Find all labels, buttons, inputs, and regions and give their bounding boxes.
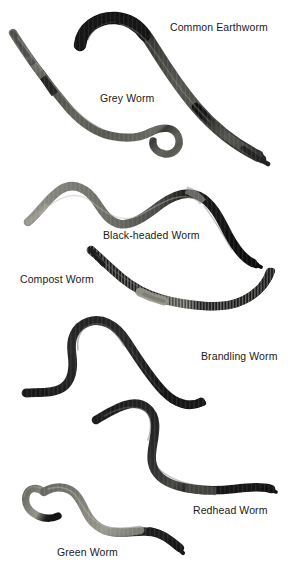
- label-black-headed-worm: Black-headed Worm: [103, 229, 200, 241]
- label-brandling-worm: Brandling Worm: [201, 350, 277, 362]
- worm-body-green: [44, 488, 180, 548]
- worm-annulation-brandling: [26, 321, 201, 405]
- worm-photo-canvas: [0, 0, 297, 574]
- earthworm-identification-plate: Common Earthworm Grey Worm Black-headed …: [0, 0, 297, 574]
- specimen-redhead-worm: [96, 404, 276, 492]
- worm-body-redhead: [96, 404, 271, 491]
- worm-annulation-redhead: [96, 404, 271, 491]
- specimen-black-headed-worm: [28, 186, 261, 267]
- label-grey-worm: Grey Worm: [100, 92, 154, 104]
- worm-sheen-grey: [18, 38, 104, 130]
- label-green-worm: Green Worm: [57, 546, 118, 558]
- label-compost-worm: Compost Worm: [20, 273, 94, 285]
- label-redhead-worm: Redhead Worm: [193, 504, 268, 516]
- worm-annulation-green: [44, 488, 180, 548]
- specimen-green-worm: [24, 487, 183, 553]
- label-common-earthworm: Common Earthworm: [170, 21, 268, 33]
- specimen-common-earthworm: [80, 18, 268, 164]
- worm-hook-grey: [151, 128, 179, 154]
- specimen-brandling-worm: [26, 321, 203, 406]
